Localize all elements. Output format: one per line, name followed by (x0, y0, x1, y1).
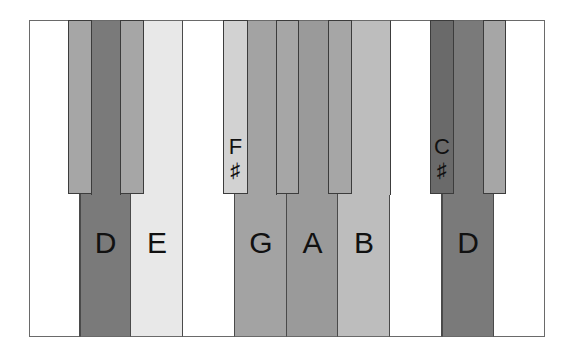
label-fsharp: F ♯ (223, 136, 248, 180)
white-key-d2-upper[interactable] (453, 20, 484, 195)
sharp-icon: ♯ (430, 160, 454, 180)
white-key-d2[interactable] (442, 193, 494, 337)
label-csharp-note: C (430, 136, 454, 158)
black-key-dsharp2[interactable] (483, 20, 506, 194)
black-key-csharp[interactable] (68, 20, 92, 194)
white-key-d[interactable] (80, 193, 131, 337)
white-key-g[interactable] (235, 193, 287, 337)
white-key-b-upper[interactable] (351, 20, 391, 195)
label-a: A (287, 228, 338, 258)
white-key-a-upper[interactable] (298, 20, 329, 195)
white-key-d-upper[interactable] (91, 20, 121, 195)
black-key-gsharp[interactable] (276, 20, 299, 194)
black-key-dsharp[interactable] (120, 20, 144, 194)
label-e: E (131, 228, 183, 258)
label-fsharp-note: F (223, 136, 248, 158)
label-g: G (235, 228, 287, 258)
label-d2: D (442, 228, 494, 258)
black-key-asharp[interactable] (328, 20, 352, 194)
white-key-a[interactable] (287, 193, 338, 337)
white-key-g-upper[interactable] (247, 20, 277, 195)
label-b: B (338, 228, 390, 258)
label-d: D (80, 228, 131, 258)
label-csharp: C ♯ (430, 136, 454, 180)
sharp-icon: ♯ (223, 160, 248, 180)
